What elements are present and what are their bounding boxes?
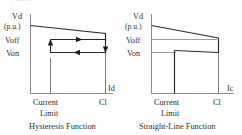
x-tick-current-limit-label-line1: Current	[154, 98, 180, 107]
curve-hysteresis-loop	[51, 40, 106, 53]
y-tick-von-label: Von	[6, 49, 19, 58]
x-axis-title: Ic	[227, 84, 234, 93]
panel-straight-line-function: Vd (p.u.) Voff Von Ic Current Limit Cl S…	[121, 0, 242, 135]
y-axis-title-line1: Vd	[12, 12, 22, 21]
y-axis-title-line2: (p.u.)	[125, 22, 142, 31]
curve-lower-ramp	[175, 51, 219, 53]
y-tick-von-label: Von	[127, 49, 140, 58]
x-axis-title: Id	[108, 84, 115, 93]
panel-caption: Hysteresis Function	[29, 122, 97, 131]
y-tick-voff-label: Voff	[5, 36, 20, 45]
x-tick-current-limit-label-line1: Current	[33, 98, 59, 107]
curve-upper-droop	[31, 26, 106, 41]
y-tick-voff-label: Voff	[126, 36, 141, 45]
x-tick-current-limit-label-line2: Limit	[161, 109, 180, 118]
y-axis-title-line2: (p.u.)	[4, 22, 21, 31]
y-axis-title-line1: Vd	[133, 12, 143, 21]
panel-hysteresis-function: Vd (p.u.) Voff Von Id Current Limit Cl H…	[0, 0, 121, 135]
figure-root: V drr... -- -- --- ---- --- - --- Vd (p.…	[0, 0, 242, 135]
x-tick-cl-label: Cl	[213, 98, 221, 107]
top-edge-arrow-icon	[76, 37, 83, 42]
curve-upper-droop	[152, 26, 219, 39]
panel-caption: Straight-Line Function	[139, 122, 216, 131]
x-tick-current-limit-label-line2: Limit	[40, 109, 59, 118]
x-tick-cl-label: Cl	[99, 98, 107, 107]
bottom-edge-arrow-icon	[74, 50, 81, 55]
